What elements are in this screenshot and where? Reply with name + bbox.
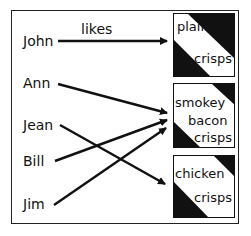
product-plain-crisps: plain crisps	[173, 13, 235, 77]
person-john: John	[23, 33, 53, 49]
person-bill: Bill	[23, 153, 44, 169]
person-jean: Jean	[23, 117, 53, 133]
arrow-ann-smokey	[58, 84, 167, 113]
arrow-jim-smokey	[54, 128, 166, 205]
person-ann: Ann	[23, 75, 50, 91]
person-jim: Jim	[23, 196, 45, 212]
relation-label: likes	[81, 21, 112, 37]
product-smokey-bacon-crisps: smokey bacon crisps	[173, 83, 235, 148]
product-chicken-crisps: chicken crisps	[173, 155, 235, 218]
